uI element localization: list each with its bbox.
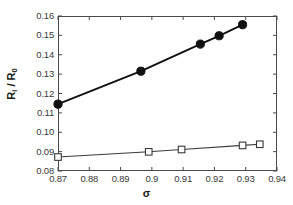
y-axis-title: Ri / R0 (5, 49, 17, 119)
y-tick-label-3: 0.11 (20, 108, 54, 118)
y-axis-title-sub-0: 0 (10, 68, 19, 72)
x-axis-title: σ (0, 187, 293, 199)
y-axis-title-slash: / (5, 80, 17, 89)
y-tick-label-2: 0.10 (20, 127, 54, 137)
y-tick-label-7: 0.15 (20, 30, 54, 40)
plot-area (58, 16, 277, 171)
x-axis-tick-labels: 0.870.880.890.90.910.920.930.94 (0, 174, 293, 188)
y-tick-label-1: 0.09 (20, 147, 54, 157)
y-tick-label-4: 0.12 (20, 89, 54, 99)
y-axis-title-sub-i: i (10, 90, 19, 92)
x-tick-label-7: 0.94 (257, 174, 293, 184)
chart-figure: 0.080.090.100.110.120.130.140.150.16 Ri … (0, 0, 293, 205)
y-axis-title-r2: R (5, 73, 17, 81)
y-tick-label-5: 0.13 (20, 69, 54, 79)
y-axis-title-r1: R (5, 92, 17, 100)
y-tick-label-6: 0.14 (20, 50, 54, 60)
y-tick-label-8: 0.16 (20, 11, 54, 21)
